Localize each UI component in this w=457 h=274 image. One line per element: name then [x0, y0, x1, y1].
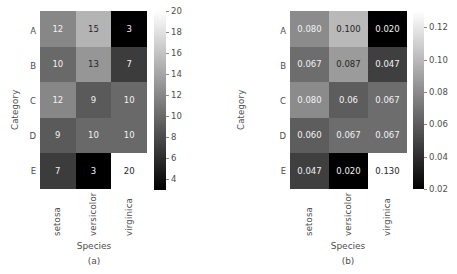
heatmap-cell-value: 0.020	[336, 167, 360, 176]
panel-b-heatmap: 0.0800.1000.0200.0670.0870.0470.0800.060…	[290, 11, 407, 189]
heatmap-cell: 13	[76, 47, 112, 83]
heatmap-cell: 0.020	[329, 153, 368, 189]
colorbar-tick	[424, 124, 427, 125]
heatmap-cell: 0.067	[368, 82, 407, 118]
panel-a-ytick-1: B	[22, 61, 36, 71]
colorbar-ticklabel: 0.04	[429, 152, 448, 162]
heatmap-cell: 10	[40, 47, 76, 83]
colorbar-tick	[166, 74, 169, 75]
heatmap-cell: 20	[111, 153, 147, 189]
panel-a: Category A B C D E 121531013712910910107…	[0, 0, 229, 274]
heatmap-cell-value: 0.06	[339, 96, 358, 105]
heatmap-cell: 0.047	[368, 47, 407, 83]
colorbar-tick	[424, 60, 427, 61]
colorbar-tick	[166, 95, 169, 96]
heatmap-cell-value: 0.067	[375, 96, 399, 105]
heatmap-cell: 9	[40, 118, 76, 154]
heatmap-cell-value: 0.080	[297, 96, 321, 105]
panel-a-xtick-2: virginica	[124, 198, 134, 236]
heatmap-cell-value: 0.067	[336, 131, 360, 140]
panel-b-ytick-1: B	[272, 61, 286, 71]
panel-b-colorbar-gradient	[413, 11, 424, 189]
colorbar-tick	[424, 27, 427, 28]
panel-b: Category A B C D E 0.0800.1000.0200.0670…	[228, 0, 457, 274]
heatmap-cell-value: 7	[126, 60, 131, 69]
heatmap-cell: 7	[111, 47, 147, 83]
colorbar-ticklabel: 10	[171, 111, 182, 121]
panel-a-colorbar-gradient	[154, 11, 166, 190]
heatmap-cell-value: 9	[91, 96, 96, 105]
colorbar-tick	[424, 157, 427, 158]
heatmap-cell: 0.087	[329, 47, 368, 83]
heatmap-cell: 0.060	[290, 118, 329, 154]
heatmap-cell: 10	[111, 118, 147, 154]
panel-a-ytick-4: E	[22, 166, 36, 176]
heatmap-cell-value: 0.067	[297, 60, 321, 69]
panel-a-ylabel: Category	[10, 90, 20, 130]
heatmap-cell-value: 0.060	[297, 131, 321, 140]
heatmap-cell: 10	[76, 118, 112, 154]
colorbar-tick	[166, 53, 169, 54]
colorbar-tick	[166, 32, 169, 33]
colorbar-ticklabel: 0.08	[429, 87, 448, 97]
heatmap-cell-value: 10	[88, 131, 99, 140]
panel-b-ytick-3: D	[272, 131, 286, 141]
panel-b-caption: (b)	[288, 256, 408, 266]
heatmap-cell-value: 0.047	[297, 167, 321, 176]
heatmap-cell-value: 0.100	[336, 25, 360, 34]
heatmap-cell: 7	[40, 153, 76, 189]
panel-a-ytick-0: A	[22, 26, 36, 36]
colorbar-ticklabel: 6	[171, 153, 176, 163]
panel-a-heatmap: 121531013712910910107320	[40, 11, 147, 189]
heatmap-cell: 3	[76, 153, 112, 189]
heatmap-cell-value: 12	[52, 96, 63, 105]
heatmap-cell: 0.06	[329, 82, 368, 118]
panel-b-ytick-0: A	[272, 26, 286, 36]
heatmap-cell: 0.080	[290, 11, 329, 47]
colorbar-tick	[166, 137, 169, 138]
heatmap-cell: 15	[76, 11, 112, 47]
panel-a-colorbar: 201816141210864	[154, 11, 166, 190]
panel-b-xlabel: Species	[288, 241, 408, 251]
colorbar-ticklabel: 0.02	[429, 184, 448, 194]
heatmap-cell: 12	[40, 82, 76, 118]
panel-b-ylabel: Category	[236, 90, 246, 130]
colorbar-ticklabel: 14	[171, 69, 182, 79]
heatmap-cell-value: 3	[91, 167, 96, 176]
panel-a-xtick-0: setosa	[52, 207, 62, 236]
heatmap-cell: 3	[111, 11, 147, 47]
heatmap-cell-value: 0.067	[375, 131, 399, 140]
panel-b-xtick-1: versicolor	[343, 193, 353, 236]
heatmap-cell: 0.130	[368, 153, 407, 189]
colorbar-tick	[166, 11, 169, 12]
heatmap-cell-value: 0.087	[336, 60, 360, 69]
colorbar-tick	[166, 179, 169, 180]
colorbar-ticklabel: 18	[171, 27, 182, 37]
figure-heatmap-pair: Category A B C D E 121531013712910910107…	[0, 0, 457, 274]
heatmap-cell: 0.020	[368, 11, 407, 47]
panel-a-ytick-3: D	[22, 131, 36, 141]
colorbar-ticklabel: 16	[171, 48, 182, 58]
heatmap-cell-value: 15	[88, 25, 99, 34]
colorbar-ticklabel: 12	[171, 90, 182, 100]
heatmap-cell: 0.047	[290, 153, 329, 189]
heatmap-cell: 0.067	[290, 47, 329, 83]
heatmap-cell-value: 13	[88, 60, 99, 69]
colorbar-ticklabel: 0.12	[429, 22, 448, 32]
heatmap-cell-value: 3	[126, 25, 131, 34]
panel-a-xtick-1: versicolor	[88, 193, 98, 236]
heatmap-cell-value: 0.020	[375, 25, 399, 34]
colorbar-ticklabel: 4	[171, 174, 176, 184]
colorbar-ticklabel: 0.06	[429, 119, 448, 129]
panel-b-xtick-2: virginica	[382, 198, 392, 236]
heatmap-cell-value: 10	[124, 131, 135, 140]
colorbar-ticklabel: 0.10	[429, 55, 448, 65]
heatmap-cell-value: 0.047	[375, 60, 399, 69]
heatmap-cell-value: 0.130	[375, 167, 399, 176]
panel-b-ytick-2: C	[272, 96, 286, 106]
colorbar-ticklabel: 8	[171, 132, 176, 142]
panel-b-colorbar: 0.120.100.080.060.040.02	[413, 11, 424, 189]
colorbar-tick	[166, 158, 169, 159]
colorbar-tick	[424, 189, 427, 190]
panel-b-xtick-0: setosa	[304, 207, 314, 236]
